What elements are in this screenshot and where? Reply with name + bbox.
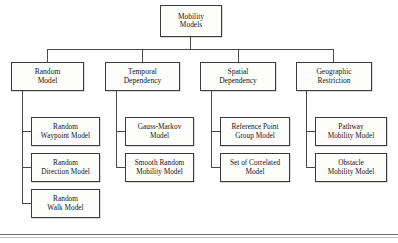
node-label-line: Mobility Model	[328, 132, 375, 140]
node-label-line: Model	[38, 77, 58, 85]
connector-branch-reference-point-group	[211, 131, 220, 132]
connector-branch-obstacle-mobility	[306, 167, 315, 168]
node-random-direction-model: Random Direction Model	[31, 153, 100, 182]
node-random-waypoint-model: Random Waypoint Model	[31, 117, 100, 146]
node-set-of-correlated-model: Set of Correlated Model	[220, 153, 290, 182]
node-spatial-dependency: Spatial Dependency	[200, 62, 276, 91]
node-pathway-mobility-model: Pathway Mobility Model	[315, 117, 387, 146]
node-label-line: Group Model	[235, 132, 275, 140]
connector-bus-drop-3	[238, 49, 239, 62]
connector-spine-temporal-dependency	[116, 91, 117, 168]
connector-branch-set-of-correlated	[211, 167, 220, 168]
node-label-line: Waypoint Model	[41, 132, 90, 140]
connector-bus-drop-2	[142, 49, 143, 62]
node-random-walk-model: Random Walk Model	[31, 189, 100, 218]
mobility-models-hierarchy-diagram: Mobility Models Random Model Random Wayp…	[0, 0, 398, 243]
node-label-line: Restriction	[317, 77, 350, 85]
connector-spine-random-model	[22, 91, 23, 204]
connector-branch-random-waypoint	[22, 131, 31, 132]
node-gauss-markov-model: Gauss-Markov Model	[125, 117, 194, 146]
node-label-line: Model	[245, 168, 264, 176]
node-reference-point-group-model: Reference Point Group Model	[220, 117, 290, 146]
connector-branch-random-walk	[22, 203, 31, 204]
connector-branch-pathway-mobility	[306, 131, 315, 132]
node-random-model: Random Model	[11, 62, 84, 91]
node-mobility-models: Mobility Models	[160, 5, 222, 37]
node-smooth-random-mobility-model: Smooth Random Mobility Model	[125, 153, 194, 182]
connector-bus-drop-4	[333, 49, 334, 62]
node-geographic-restriction: Geographic Restriction	[296, 62, 372, 91]
connector-branch-smooth-random	[116, 167, 125, 168]
connector-spine-geographic-restriction	[306, 91, 307, 168]
node-obstacle-mobility-model: Obstacle Mobility Model	[315, 153, 387, 182]
node-label-line: Walk Model	[47, 204, 83, 212]
node-label-line: Models	[180, 21, 202, 29]
connector-branch-random-direction	[22, 167, 31, 168]
connector-bus-level2	[47, 49, 334, 50]
node-label-line: Model	[150, 132, 169, 140]
connector-bus-drop-1	[47, 49, 48, 62]
node-temporal-dependency: Temporal Dependency	[105, 62, 180, 91]
node-label-line: Dependency	[124, 77, 162, 85]
footer-rule-top	[0, 234, 398, 235]
connector-branch-gauss-markov	[116, 131, 125, 132]
connector-spine-spatial-dependency	[211, 91, 212, 168]
node-label-line: Direction Model	[41, 168, 90, 176]
footer-rule-bottom	[0, 237, 398, 238]
node-label-line: Mobility Model	[328, 168, 375, 176]
node-label-line: Dependency	[219, 77, 257, 85]
node-label-line: Mobility Model	[136, 168, 183, 176]
